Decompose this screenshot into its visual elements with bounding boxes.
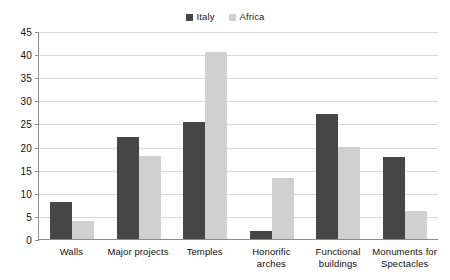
x-tick-label: Temples (171, 242, 238, 280)
bar-groups (39, 32, 438, 239)
bar-italy[interactable] (183, 122, 205, 239)
x-axis: WallsMajor projectsTemplesHonorific arch… (38, 242, 438, 280)
legend-entry-africa[interactable]: Africa (229, 12, 265, 22)
bar-group (106, 32, 173, 239)
bar-africa[interactable] (72, 221, 94, 239)
x-tick-label: Honorific arches (238, 242, 305, 280)
bar-group (172, 32, 239, 239)
y-tick-label: 30 (20, 96, 32, 107)
legend-swatch-icon (229, 14, 236, 21)
bar-africa[interactable] (139, 156, 161, 239)
bar-group (39, 32, 106, 239)
bar-italy[interactable] (316, 114, 338, 239)
x-tick-label: Walls (38, 242, 105, 280)
y-tick-label: 20 (20, 142, 32, 153)
chart-legend: ItalyAfrica (0, 10, 450, 24)
x-tick-label: Monuments for Spectacles (371, 242, 438, 280)
legend-label: Italy (197, 12, 215, 22)
legend-swatch-icon (186, 14, 193, 21)
y-tick-label: 10 (20, 188, 32, 199)
plot-area (38, 32, 438, 240)
legend-label: Africa (240, 12, 265, 22)
y-tick-label: 40 (20, 50, 32, 61)
bar-africa[interactable] (405, 211, 427, 239)
bar-italy[interactable] (250, 231, 272, 239)
y-tick-label: 15 (20, 165, 32, 176)
bar-africa[interactable] (338, 147, 360, 239)
y-tick-label: 45 (20, 27, 32, 38)
legend-entry-italy[interactable]: Italy (186, 12, 215, 22)
y-tick-label: 35 (20, 73, 32, 84)
bar-africa[interactable] (205, 52, 227, 239)
plot-wrapper: 454035302520151050 WallsMajor projectsTe… (0, 32, 450, 280)
bar-italy[interactable] (50, 202, 72, 239)
y-tickmark (35, 240, 39, 241)
bar-italy[interactable] (383, 157, 405, 239)
x-tick-label: Functional buildings (305, 242, 372, 280)
bar-group (305, 32, 372, 239)
bar-chart: ItalyAfrica 454035302520151050 WallsMajo… (0, 0, 450, 280)
y-tick-label: 25 (20, 119, 32, 130)
bar-group (239, 32, 306, 239)
y-tick-label: 5 (26, 211, 32, 222)
bar-italy[interactable] (117, 137, 139, 239)
x-tick-label: Major projects (105, 242, 172, 280)
y-tick-label: 0 (26, 235, 32, 246)
bar-africa[interactable] (272, 178, 294, 239)
y-axis: 454035302520151050 (0, 32, 38, 240)
bar-group (372, 32, 439, 239)
